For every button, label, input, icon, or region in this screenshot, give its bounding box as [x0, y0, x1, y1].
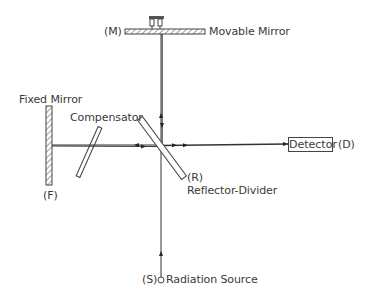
radiation-source-icon [158, 277, 164, 283]
detector-tag: (D) [338, 139, 355, 151]
interferometer-diagram: (M) Movable Mirror Fixed Mirror (F) Comp… [0, 0, 368, 304]
movable-mirror [125, 16, 205, 34]
reflector-divider-label: Reflector-Divider [187, 185, 277, 197]
compensator-label: Compensator [70, 112, 143, 124]
radiation-source-tag: (S) [142, 274, 157, 286]
fixed-mirror-tag: (F) [43, 190, 58, 202]
movable-mirror-label: Movable Mirror [209, 26, 290, 38]
radiation-source-label: Radiation Source [166, 274, 258, 286]
compensator-plate [76, 127, 102, 178]
diagram-canvas [0, 0, 368, 304]
fixed-mirror [46, 106, 52, 185]
mirror-mount-icon [149, 16, 164, 29]
detector-label: Detector [289, 138, 337, 151]
detector-box: Detector [288, 137, 333, 152]
movable-mirror-tag: (M) [104, 26, 122, 38]
fixed-mirror-label: Fixed Mirror [19, 94, 82, 106]
reflector-divider-tag: (R) [187, 172, 203, 184]
